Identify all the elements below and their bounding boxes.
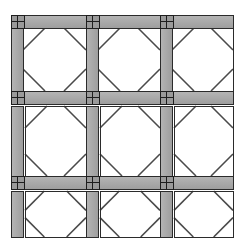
bay-1-1-braces [23, 28, 86, 91]
beam-member [11, 91, 233, 104]
column-member [11, 191, 23, 237]
bay-opening [174, 106, 233, 176]
bay-opening [98, 28, 160, 91]
joint-r3-c3 [160, 176, 173, 189]
column-member [11, 106, 23, 176]
col-mid2-r2 [160, 106, 172, 176]
joint-r2-c1 [11, 91, 24, 104]
col-mid1-r3 [86, 191, 98, 237]
bay-1-2-braces [98, 28, 160, 91]
col-mid1-r2 [86, 106, 98, 176]
bay-opening [25, 191, 86, 237]
bay-3-1-braces [25, 191, 86, 237]
joint-r1-c2 [86, 15, 99, 28]
col-left-r2 [11, 106, 23, 176]
joint-r2-c3 [160, 91, 173, 104]
braced-frame-figure [0, 0, 241, 252]
bay-1-3-braces [172, 28, 233, 91]
column-member [86, 191, 98, 237]
joint-r2-c2 [86, 91, 99, 104]
col-mid2-r3 [160, 191, 172, 237]
diagonal-braces-layer [23, 28, 233, 237]
column-member [86, 106, 98, 176]
beam-member [11, 176, 233, 189]
column-member [160, 191, 172, 237]
joint-r3-c1 [11, 176, 24, 189]
joint-r1-c3 [160, 15, 173, 28]
bay-2-1-braces [25, 106, 86, 176]
bay-opening [174, 191, 233, 237]
column-member [160, 106, 172, 176]
joint-r3-c2 [86, 176, 99, 189]
bay-opening [100, 191, 160, 237]
beam-mid-1 [11, 91, 233, 104]
bay-opening [172, 28, 233, 91]
bay-3-2-braces [100, 191, 160, 237]
beam-mid-2 [11, 176, 233, 189]
bay-2-3-braces [174, 106, 233, 176]
bay-3-3-braces [174, 191, 233, 237]
bay-opening [100, 106, 160, 176]
beam-top-1 [11, 15, 233, 28]
bay-opening [25, 106, 86, 176]
col-left-r3 [11, 191, 23, 237]
bay-2-2-braces [100, 106, 160, 176]
bay-opening [23, 28, 86, 91]
beam-member [11, 15, 233, 28]
joint-r1-c1 [11, 15, 24, 28]
frame-diagram-svg [0, 0, 241, 252]
